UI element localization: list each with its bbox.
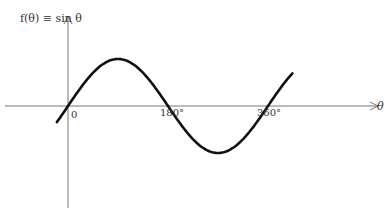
- chart-title: f(θ) ≡ sin θ: [20, 12, 82, 25]
- sine-chart: [0, 0, 391, 212]
- x-tick-360: 360°: [257, 107, 281, 118]
- x-axis-label: θ: [377, 100, 384, 113]
- x-tick-180: 180°: [160, 107, 184, 118]
- x-tick-0: 0: [71, 109, 77, 120]
